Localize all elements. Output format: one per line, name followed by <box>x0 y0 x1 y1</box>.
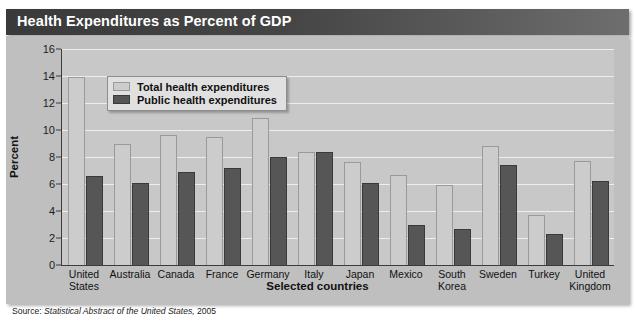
bar-public <box>132 183 149 265</box>
source-note: Source: Statistical Abstract of the Unit… <box>12 306 216 316</box>
bar-public <box>362 183 379 265</box>
bar-total <box>298 152 315 265</box>
y-tick-mark <box>56 238 61 239</box>
source-publication: Statistical Abstract of the United State… <box>44 306 195 316</box>
page-title: Health Expenditures as Percent of GDP <box>17 13 291 29</box>
bar-total <box>252 118 269 265</box>
bar-total <box>344 162 361 265</box>
bar-total <box>390 175 407 265</box>
legend-label-public: Public health expenditures <box>137 94 277 106</box>
y-tick-label: 2 <box>49 232 55 244</box>
bar-total <box>482 146 499 265</box>
legend-label-total: Total health expenditures <box>137 81 269 93</box>
bar-public <box>224 168 241 265</box>
legend-swatch-total <box>113 82 130 91</box>
x-tick-label: Turkey <box>521 269 567 281</box>
x-tick-label: Australia <box>107 269 153 281</box>
bar-total <box>114 144 131 266</box>
chart-panel: Percent 0246810121416 Total health expen… <box>6 36 629 304</box>
y-tick-label: 4 <box>49 205 55 217</box>
bar-total <box>160 135 177 265</box>
source-year: 2005 <box>197 306 216 316</box>
y-tick-label: 10 <box>43 124 55 136</box>
y-tick-label: 12 <box>43 97 55 109</box>
y-tick-mark <box>56 265 61 266</box>
x-tick-label: France <box>199 269 245 281</box>
bar-total <box>436 185 453 265</box>
y-tick-mark <box>56 130 61 131</box>
bar-public <box>316 152 333 265</box>
bar-public <box>270 157 287 265</box>
y-tick-mark <box>56 211 61 212</box>
bar-public <box>454 229 471 265</box>
y-tick-label: 14 <box>43 70 55 82</box>
bar-public <box>546 234 563 265</box>
y-tick-mark <box>56 76 61 77</box>
gridline <box>62 130 614 131</box>
x-tick-label: Japan <box>337 269 383 281</box>
bar-public <box>592 181 609 265</box>
bar-public <box>500 165 517 265</box>
x-tick-label: SouthKorea <box>429 269 475 292</box>
y-tick-mark <box>56 49 61 50</box>
bar-public <box>86 176 103 265</box>
chart-legend: Total health expenditures Public health … <box>107 76 287 111</box>
bar-total <box>206 137 223 265</box>
x-tick-label: Sweden <box>475 269 521 281</box>
x-tick-label: Germany <box>245 269 291 281</box>
gridline <box>62 49 614 50</box>
y-tick-mark <box>56 157 61 158</box>
y-tick-label: 6 <box>49 178 55 190</box>
x-tick-label: Italy <box>291 269 337 281</box>
y-axis-title: Percent <box>8 136 20 178</box>
title-bar: Health Expenditures as Percent of GDP <box>6 9 629 35</box>
bar-total <box>528 215 545 265</box>
gridline <box>62 157 614 158</box>
y-tick-label: 0 <box>49 259 55 271</box>
bar-public <box>178 172 195 265</box>
bar-public <box>408 225 425 266</box>
bar-total <box>574 161 591 265</box>
legend-swatch-public <box>113 95 130 104</box>
x-tick-label: Canada <box>153 269 199 281</box>
y-tick-mark <box>56 184 61 185</box>
bar-total <box>68 77 85 265</box>
chart-figure: Health Expenditures as Percent of GDP Pe… <box>0 0 635 325</box>
y-tick-label: 8 <box>49 151 55 163</box>
legend-item-total: Total health expenditures <box>113 80 277 93</box>
y-tick-label: 16 <box>43 43 55 55</box>
source-label: Source: <box>12 306 42 316</box>
x-tick-label: UnitedKingdom <box>567 269 613 292</box>
x-tick-label: UnitedStates <box>61 269 107 292</box>
legend-item-public: Public health expenditures <box>113 93 277 106</box>
x-tick-label: Mexico <box>383 269 429 281</box>
y-tick-mark <box>56 103 61 104</box>
